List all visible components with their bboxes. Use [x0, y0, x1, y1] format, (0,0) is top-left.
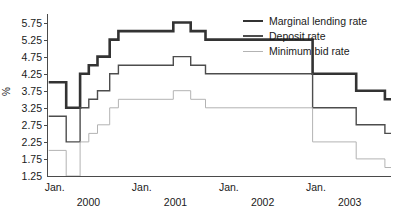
interest-rate-chart: % 1.251.752.252.753.253.754.254.755.255.… [0, 0, 394, 215]
y-axis-tick-label: 2.75 [2, 120, 42, 130]
y-axis-tick-mark [44, 142, 48, 143]
legend-label-marginal: Marginal lending rate [269, 16, 367, 27]
x-axis-tick-label: Jan. [132, 181, 152, 193]
chart-legend: Marginal lending rate Deposit rate Minim… [243, 14, 393, 59]
x-axis-tick-label: Jan. [45, 181, 65, 193]
y-axis-tick-label: 4.75 [2, 52, 42, 62]
y-axis-tick-label: 5.75 [2, 18, 42, 28]
legend-label-deposit: Deposit rate [269, 31, 326, 42]
y-axis-tick-label: 3.75 [2, 86, 42, 96]
series-line [49, 57, 391, 142]
y-axis-tick-label: 3.25 [2, 103, 42, 113]
y-axis-tick-label: 5.25 [2, 35, 42, 45]
legend-item-minimum-bid-rate: Minimum bid rate [243, 44, 393, 58]
y-axis-tick-label: 4.25 [2, 69, 42, 79]
y-axis-tick-mark [44, 108, 48, 109]
y-axis-tick-mark [44, 91, 48, 92]
x-axis-year-label: 2003 [338, 196, 361, 208]
legend-line-icon-minbid [243, 46, 263, 56]
legend-item-deposit-rate: Deposit rate [243, 29, 393, 43]
x-axis-year-label: 2001 [164, 196, 187, 208]
x-axis-tick-label: Jan. [306, 181, 326, 193]
y-axis-tick-mark [44, 40, 48, 41]
legend-line-icon-marginal [243, 16, 263, 26]
y-axis-tick-mark [44, 159, 48, 160]
legend-line-icon-deposit [243, 31, 263, 41]
y-axis-tick-mark [44, 23, 48, 24]
x-axis-line [47, 176, 391, 177]
legend-label-minbid: Minimum bid rate [269, 46, 350, 57]
legend-item-marginal-lending-rate: Marginal lending rate [243, 14, 393, 28]
y-axis-tick-label: 1.25 [2, 171, 42, 181]
x-axis-year-label: 2000 [77, 196, 100, 208]
series-line [49, 91, 391, 176]
x-axis-year-label: 2002 [251, 196, 274, 208]
y-axis-tick-label: 1.75 [2, 154, 42, 164]
y-axis-tick-mark [44, 57, 48, 58]
y-axis-tick-label: 2.25 [2, 137, 42, 147]
y-axis-tick-labels: 1.251.752.252.753.253.754.254.755.255.75 [0, 0, 42, 215]
y-axis-tick-mark [44, 74, 48, 75]
x-axis-tick-label: Jan. [219, 181, 239, 193]
y-axis-tick-mark [44, 125, 48, 126]
